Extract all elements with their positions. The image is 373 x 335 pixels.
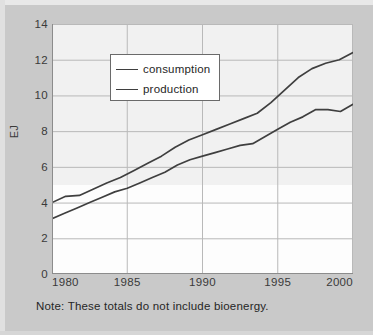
y-axis-tick-0: 0 (14, 268, 48, 280)
chart-note: Note: These totals do not include bioene… (36, 300, 269, 312)
x-axis-tick-1990: 1990 (189, 276, 216, 288)
legend-entry-production: production (116, 82, 199, 96)
y-axis-tick-6: 6 (14, 161, 48, 173)
y-axis-tick-14: 14 (14, 18, 48, 30)
x-axis-tick-1995: 1995 (264, 276, 291, 288)
x-axis-tick-labels: 19801985199019952000 (52, 276, 353, 294)
x-axis-tick-1980: 1980 (52, 276, 79, 288)
chart-figure: 02468101214 EJ consumption production 19… (0, 0, 373, 335)
x-axis-tick-2000: 2000 (326, 276, 353, 288)
figure-bevel-bottom (0, 331, 373, 335)
figure-bevel-top (0, 0, 373, 5)
x-axis-tick-1985: 1985 (114, 276, 141, 288)
legend-label-production: production (143, 83, 199, 95)
y-axis-tick-10: 10 (14, 89, 48, 101)
legend-entry-consumption: consumption (116, 62, 210, 76)
figure-bevel-left (0, 0, 5, 335)
y-axis-tick-4: 4 (14, 197, 48, 209)
chart-legend: consumption production (110, 54, 220, 101)
plot-area: consumption production (52, 24, 353, 274)
legend-line-swatch-consumption (116, 69, 138, 70)
y-axis-tick-labels: 02468101214 (10, 24, 48, 274)
legend-line-swatch-production (116, 89, 138, 90)
y-axis-tick-2: 2 (14, 232, 48, 244)
y-axis-title: EJ (8, 125, 20, 138)
y-axis-tick-12: 12 (14, 54, 48, 66)
legend-label-consumption: consumption (143, 63, 210, 75)
